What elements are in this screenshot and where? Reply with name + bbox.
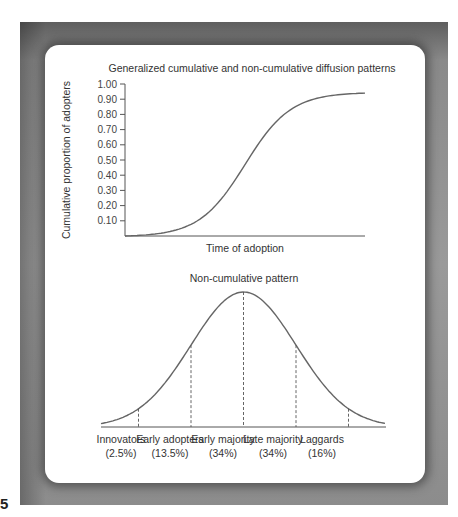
y-tick-label: 0.30	[98, 185, 118, 196]
category-labels: Innovators (2.5%) Early adopters (13.5%)…	[96, 433, 343, 459]
category-dividers	[139, 292, 349, 427]
bottom-chart-title: Non-cumulative pattern	[190, 272, 299, 284]
diffusion-figure: Generalized cumulative and non-cumulativ…	[0, 0, 458, 517]
top-chart-title: Generalized cumulative and non-cumulativ…	[109, 62, 396, 74]
y-tick-label: 0.80	[98, 109, 118, 120]
y-tick-label: 1.00	[98, 79, 118, 90]
y-tick-label: 0.90	[98, 94, 118, 105]
category-pct-laggards: (16%)	[308, 447, 336, 459]
y-tick-label: 0.20	[98, 200, 118, 211]
y-tick-label: 0.10	[98, 215, 118, 226]
x-axis-label: Time of adoption	[206, 242, 284, 254]
y-axis: 0.100.200.300.400.500.600.700.800.901.00	[98, 79, 125, 237]
y-tick-label: 0.50	[98, 155, 118, 166]
y-tick-label: 0.70	[98, 124, 118, 135]
category-pct-innovators: (2.5%)	[106, 447, 137, 459]
y-axis-label: Cumulative proportion of adopters	[60, 81, 72, 239]
category-label-late-majority: Late majority	[243, 433, 304, 445]
y-tick-label: 0.40	[98, 170, 118, 181]
bell-curve	[101, 292, 385, 424]
category-pct-late-majority: (34%)	[259, 447, 287, 459]
category-label-laggards: Laggards	[300, 433, 344, 445]
category-pct-early-adopters: (13.5%)	[152, 447, 189, 459]
y-tick-label: 0.60	[98, 139, 118, 150]
cumulative-s-curve	[125, 93, 365, 236]
category-pct-early-majority: (34%)	[209, 447, 237, 459]
